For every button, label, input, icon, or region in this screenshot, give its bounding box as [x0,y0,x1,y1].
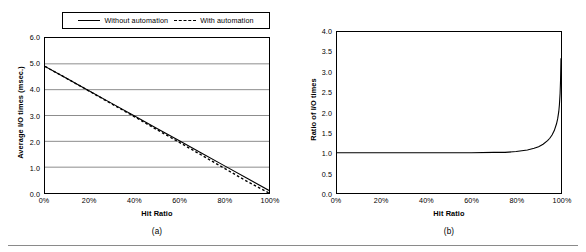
y-tick-label: 1.5 [322,128,332,137]
y-axis-title-b: Ratio of I/O times [309,45,318,175]
x-tick-label: 0% [39,196,50,205]
y-tick-label: 3.5 [322,47,332,56]
y-tick-label: 0.5 [322,169,332,178]
x-tick-label: 20% [374,196,389,205]
chart-panel-b: 0.00.51.01.52.02.53.03.54.0 0%20%40%60%8… [293,0,586,252]
y-tick-label: 6.0 [30,33,40,42]
plot-svg-a [45,38,269,193]
y-tick-label: 3.0 [322,67,332,76]
y-tick-label: 1.0 [30,163,40,172]
y-tick-label: 2.0 [322,108,332,117]
legend-dashed-line-icon [174,20,196,21]
figure-container: Without automation With automation 0.01.… [0,0,586,252]
x-tick-label: 40% [127,196,142,205]
legend-entry-with-automation: With automation [174,16,253,25]
y-axis-title-a: Average I/O times (msec.) [16,48,25,178]
x-tick-label: 80% [509,196,524,205]
x-tick-label: 80% [217,196,232,205]
x-axis-title-b: Hit Ratio [336,209,562,218]
legend-label-with-automation: With automation [200,16,253,25]
legend-label-without-automation: Without automation [104,16,168,25]
y-tick-label: 4.0 [322,27,332,36]
y-tick-label: 1.0 [322,149,332,158]
panel-caption-a: (a) [44,227,270,236]
plot-area-b [336,31,562,194]
y-tick-label: 2.0 [30,137,40,146]
x-tick-label: 20% [82,196,97,205]
series-line-2 [45,66,269,193]
x-axis-ticks-b: 0%20%40%60%80%100% [336,196,562,208]
y-tick-label: 5.0 [30,59,40,68]
x-axis-title-a: Hit Ratio [44,209,270,218]
panel-caption-b: (b) [336,227,562,236]
plot-svg-b [337,32,561,193]
x-tick-label: 100% [261,196,280,205]
legend-entry-without-automation: Without automation [78,16,168,25]
chart-legend: Without automation With automation [62,12,270,29]
x-tick-label: 100% [553,196,572,205]
chart-panel-a: Without automation With automation 0.01.… [0,0,293,252]
plot-area-a [44,37,270,194]
figure-bottom-rule [8,245,578,246]
x-tick-label: 60% [464,196,479,205]
series-line-1 [337,58,561,153]
x-tick-label: 0% [331,196,342,205]
legend-solid-line-icon [78,20,100,21]
x-tick-label: 60% [172,196,187,205]
y-tick-label: 2.5 [322,88,332,97]
y-tick-label: 4.0 [30,85,40,94]
x-axis-ticks-a: 0%20%40%60%80%100% [44,196,270,208]
y-tick-label: 3.0 [30,111,40,120]
x-tick-label: 40% [419,196,434,205]
